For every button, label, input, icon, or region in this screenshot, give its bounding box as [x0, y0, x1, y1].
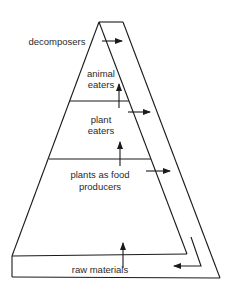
- flow-arrows: [102, 41, 201, 268]
- label-producers-line1: plants as food: [70, 169, 129, 180]
- label-decomposers: decomposers: [28, 36, 85, 47]
- label-animal-line2: eaters: [88, 79, 115, 90]
- label-animal-line1: animal: [87, 68, 115, 79]
- decomposer-band: [99, 22, 220, 278]
- label-plant-line1: plant: [91, 114, 112, 125]
- food-pyramid-diagram: decomposers animal eaters plant eaters p…: [0, 0, 230, 293]
- label-raw-materials: raw materials: [72, 264, 129, 275]
- pyramid-outline: [12, 22, 187, 256]
- label-producers-line2: producers: [79, 181, 121, 192]
- return-arrow-icon: [174, 237, 201, 266]
- label-plant-line2: eaters: [88, 125, 115, 136]
